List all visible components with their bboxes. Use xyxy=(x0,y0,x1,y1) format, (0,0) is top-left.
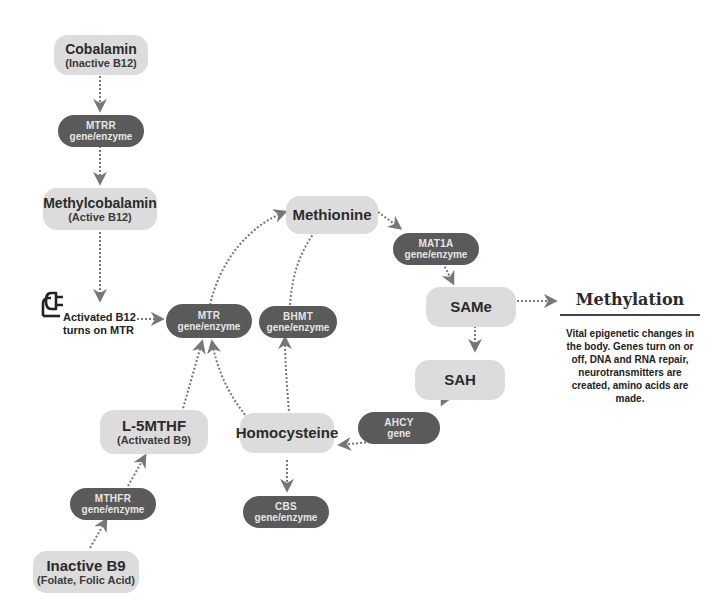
node-methylcobalamin: Methylcobalamin (Active B12) xyxy=(43,188,157,230)
enzyme-ahcy: AHCY gene xyxy=(358,412,440,444)
node-l5mthf-name: L-5MTHF xyxy=(122,417,186,434)
enzyme-cbs-type: gene/enzyme xyxy=(255,512,318,524)
node-sah: SAH xyxy=(415,360,505,400)
activated-b12-line2: turns on MTR xyxy=(63,324,136,337)
enzyme-mtrr-name: MTRR xyxy=(86,120,116,132)
enzyme-bhmt: BHMT gene/enzyme xyxy=(259,306,337,338)
methylation-divider xyxy=(560,314,700,316)
node-l5mthf: L-5MTHF (Activated B9) xyxy=(100,410,208,454)
node-homocysteine: Homocysteine xyxy=(240,413,334,453)
node-homocysteine-name: Homocysteine xyxy=(236,424,339,441)
node-methionine-name: Methionine xyxy=(292,206,371,223)
enzyme-mthfr-name: MTHFR xyxy=(95,493,132,505)
enzyme-mat1a-type: gene/enzyme xyxy=(405,249,468,261)
node-cobalamin-name: Cobalamin xyxy=(65,41,137,57)
activated-b12-label: Activated B12 turns on MTR xyxy=(63,311,136,337)
methylation-description: Vital epigenetic changes in the body. Ge… xyxy=(562,327,698,405)
node-cobalamin: Cobalamin (Inactive B12) xyxy=(54,35,148,75)
methylation-title: Methylation xyxy=(560,290,700,309)
enzyme-mtrr: MTRR gene/enzyme xyxy=(58,115,144,147)
enzyme-ahcy-name: AHCY xyxy=(384,417,414,429)
node-methionine: Methionine xyxy=(286,196,378,234)
enzyme-mtrr-type: gene/enzyme xyxy=(70,131,133,143)
node-cobalamin-subtitle: (Inactive B12) xyxy=(65,57,137,70)
enzyme-mtr-type: gene/enzyme xyxy=(178,321,241,333)
node-same-name: SAMe xyxy=(450,298,492,315)
enzyme-mthfr-type: gene/enzyme xyxy=(82,504,145,516)
activated-b12-line1: Activated B12 xyxy=(63,311,136,324)
node-same: SAMe xyxy=(426,287,516,327)
enzyme-bhmt-type: gene/enzyme xyxy=(267,322,330,334)
enzyme-mtr-name: MTR xyxy=(198,310,221,322)
node-methylcobalamin-subtitle: (Active B12) xyxy=(68,211,132,224)
node-inactive-b9-subtitle: (Folate, Folic Acid) xyxy=(37,574,135,587)
enzyme-mat1a-name: MAT1A xyxy=(418,238,453,250)
enzyme-bhmt-name: BHMT xyxy=(283,311,313,323)
node-l5mthf-subtitle: (Activated B9) xyxy=(117,434,191,447)
enzyme-ahcy-type: gene xyxy=(387,428,410,440)
node-inactive-b9-name: Inactive B9 xyxy=(46,557,125,574)
enzyme-mtr: MTR gene/enzyme xyxy=(166,304,252,338)
enzyme-cbs: CBS gene/enzyme xyxy=(243,496,329,528)
enzyme-mthfr: MTHFR gene/enzyme xyxy=(70,488,156,520)
node-methylcobalamin-name: Methylcobalamin xyxy=(43,195,157,211)
node-inactive-b9: Inactive B9 (Folate, Folic Acid) xyxy=(33,551,139,593)
enzyme-cbs-name: CBS xyxy=(275,501,297,513)
node-sah-name: SAH xyxy=(444,371,476,388)
methylation-pathway-diagram: Cobalamin (Inactive B12) MTRR gene/enzym… xyxy=(0,0,708,614)
enzyme-mat1a: MAT1A gene/enzyme xyxy=(393,233,479,265)
